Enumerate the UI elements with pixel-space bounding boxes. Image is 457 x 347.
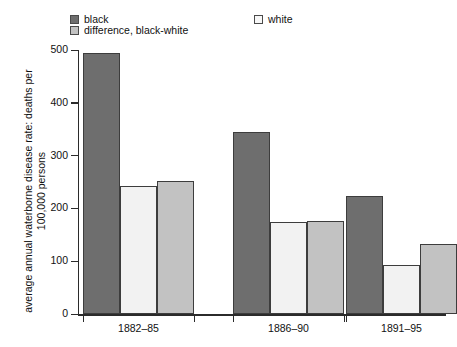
- bar-black-1882–85: [83, 53, 120, 314]
- x-axis-tick-label: 1891–95: [357, 322, 447, 334]
- bar-black-1886–90: [233, 132, 270, 314]
- bar-white-1882–85: [120, 186, 157, 314]
- y-axis-tick: [71, 314, 79, 315]
- y-axis-tick: [71, 102, 79, 103]
- bar-difference-black-white-1882–85: [157, 181, 194, 314]
- y-axis-tick: [71, 50, 79, 51]
- bar-white-1886–90: [270, 222, 307, 314]
- x-axis-tick: [194, 315, 195, 322]
- x-axis-tick-label: 1886–90: [244, 322, 334, 334]
- x-axis-tick: [83, 315, 84, 322]
- y-axis-line: [78, 50, 79, 315]
- x-axis-tick-label: 1882–85: [94, 322, 184, 334]
- bar-white-1891–95: [383, 265, 420, 314]
- y-axis-tick-label: 500: [28, 44, 68, 54]
- y-axis-tick-label: 400: [28, 97, 68, 107]
- bar-difference-black-white-1886–90: [307, 221, 344, 314]
- bar-difference-black-white-1891–95: [420, 244, 457, 314]
- y-axis-tick-label: 0: [28, 308, 68, 318]
- bar-chart: black difference, black-white white aver…: [0, 0, 457, 347]
- y-axis-tick-label: 100: [28, 255, 68, 265]
- plot-area: average annual waterborne disease rate: …: [0, 0, 457, 347]
- x-axis-tick: [233, 315, 234, 322]
- x-axis-line: [78, 314, 446, 316]
- y-axis-tick-label: 200: [28, 202, 68, 212]
- y-axis-tick: [71, 155, 79, 156]
- bar-black-1891–95: [346, 196, 383, 314]
- y-axis-tick: [71, 261, 79, 262]
- y-axis-tick-label: 300: [28, 150, 68, 160]
- x-axis-tick: [346, 315, 347, 322]
- y-axis-tick: [71, 208, 79, 209]
